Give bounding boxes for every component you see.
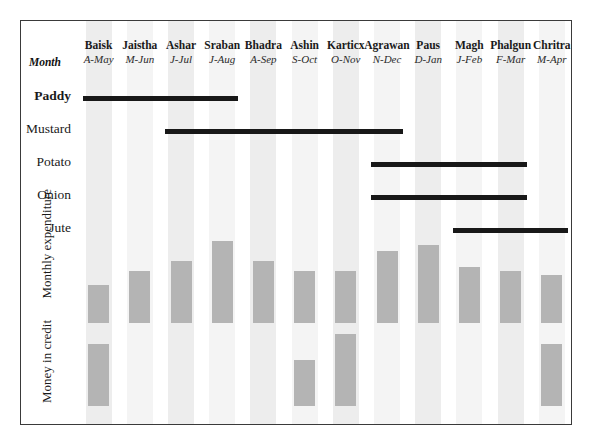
- expenditure-bar: [212, 241, 233, 323]
- month-band: [168, 21, 194, 424]
- expenditure-bar: [418, 245, 439, 323]
- credit-bar: [541, 344, 562, 406]
- credit-bar: [335, 334, 356, 406]
- crop-label-potato: Potato: [21, 154, 71, 170]
- expenditure-bar: [294, 271, 315, 323]
- month-band: [127, 21, 153, 424]
- month-band: [415, 21, 441, 424]
- chart-canvas: MonthBaiskA-MayJaisthaM-JunAsharJ-JulSra…: [0, 0, 593, 440]
- expenditure-bar: [541, 275, 562, 323]
- crop-label-paddy: Paddy: [21, 88, 71, 104]
- crop-duration-bar-onion: [371, 195, 527, 200]
- expenditure-bar: [459, 267, 480, 323]
- expenditure-bar: [253, 261, 274, 323]
- expenditure-bar: [171, 261, 192, 323]
- crop-duration-bar-potato: [371, 162, 527, 167]
- crop-label-mustard: Mustard: [21, 121, 71, 137]
- expenditure-bar: [377, 251, 398, 323]
- month-band: [498, 21, 524, 424]
- expenditure-bar: [335, 271, 356, 323]
- chart-frame: MonthBaiskA-MayJaisthaM-JunAsharJ-JulSra…: [20, 20, 572, 425]
- crop-duration-bar-mustard: [165, 129, 403, 134]
- month-band: [209, 21, 235, 424]
- credit-bar: [88, 344, 109, 406]
- month-abbr: M-Apr: [525, 54, 578, 66]
- crop-duration-bar-jute: [453, 228, 567, 233]
- month-header-chritra: ChritraM-Apr: [525, 39, 578, 66]
- crop-duration-bar-paddy: [83, 96, 239, 101]
- month-name: Chritra: [525, 39, 578, 51]
- month-header-label: Month: [29, 56, 61, 68]
- expenditure-bar: [129, 271, 150, 323]
- month-band: [250, 21, 276, 424]
- expenditure-bar: [500, 271, 521, 323]
- axis-label-money-in-credit: Money in credit: [40, 318, 55, 404]
- expenditure-bar: [88, 285, 109, 323]
- month-band: [374, 21, 400, 424]
- axis-label-monthly-expenditure: Monthly expenditure: [40, 202, 55, 298]
- month-band: [456, 21, 482, 424]
- credit-bar: [294, 360, 315, 406]
